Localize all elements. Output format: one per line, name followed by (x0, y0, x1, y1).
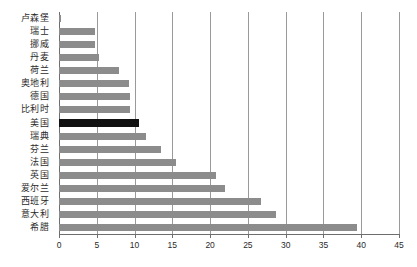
bar (59, 224, 357, 231)
bar-row (59, 221, 399, 234)
tick-label: 45 (394, 240, 403, 250)
tick-label: 40 (356, 240, 365, 250)
tick-mark (361, 234, 362, 238)
bar (59, 106, 130, 113)
category-label: 卢森堡 (0, 12, 53, 25)
bar-row (59, 182, 399, 195)
category-label: 瑞典 (0, 130, 53, 143)
tick-label: 35 (319, 240, 328, 250)
tick-label: 10 (130, 240, 139, 250)
plot-area (59, 12, 399, 234)
bar-row (59, 77, 399, 90)
tick-label: 5 (94, 240, 99, 250)
bar-row (59, 38, 399, 51)
category-label: 荷兰 (0, 64, 53, 77)
category-label: 爱尔兰 (0, 182, 53, 195)
bar-row (59, 195, 399, 208)
bar (59, 133, 146, 140)
tick-label: 0 (57, 240, 62, 250)
tick-mark (210, 234, 211, 238)
category-label: 英国 (0, 169, 53, 182)
tick-mark (172, 234, 173, 238)
bar-row (59, 12, 399, 25)
category-label: 西班牙 (0, 195, 53, 208)
bar (59, 146, 161, 153)
category-axis-labels: 卢森堡瑞士挪威丹麦荷兰奥地利德国比利时美国瑞典芬兰法国英国爱尔兰西班牙意大利希腊 (0, 12, 53, 234)
tick-label: 30 (281, 240, 290, 250)
category-label: 德国 (0, 90, 53, 103)
bar (59, 93, 130, 100)
tick-mark (97, 234, 98, 238)
bar (59, 211, 276, 218)
bar-row (59, 130, 399, 143)
tick-mark (286, 234, 287, 238)
tick-mark (248, 234, 249, 238)
bar-row (59, 51, 399, 64)
bar-row (59, 90, 399, 103)
category-label: 比利时 (0, 103, 53, 116)
bar (59, 28, 95, 35)
category-label: 瑞士 (0, 25, 53, 38)
category-label: 法国 (0, 156, 53, 169)
bar (59, 198, 261, 205)
category-label: 奥地利 (0, 77, 53, 90)
gridline (399, 12, 400, 234)
category-label: 美国 (0, 117, 53, 130)
bar (59, 67, 119, 74)
bar-row (59, 156, 399, 169)
x-axis-ticks: 051015202530354045 (59, 234, 399, 264)
bar-row (59, 143, 399, 156)
category-label: 挪威 (0, 38, 53, 51)
tick-label: 20 (205, 240, 214, 250)
tick-label: 15 (168, 240, 177, 250)
bar (59, 41, 95, 48)
bar-highlighted (59, 119, 139, 127)
bar-row (59, 103, 399, 116)
tick-mark (59, 234, 60, 238)
tick-mark (323, 234, 324, 238)
bar-chart: 卢森堡瑞士挪威丹麦荷兰奥地利德国比利时美国瑞典芬兰法国英国爱尔兰西班牙意大利希腊… (0, 0, 417, 267)
category-label: 意大利 (0, 208, 53, 221)
bar-row (59, 169, 399, 182)
bar (59, 185, 225, 192)
bar (59, 172, 216, 179)
bar-row (59, 25, 399, 38)
category-label: 希腊 (0, 221, 53, 234)
bar (59, 15, 61, 22)
bar (59, 159, 176, 166)
tick-mark (135, 234, 136, 238)
bar-series (59, 12, 399, 234)
category-label: 芬兰 (0, 143, 53, 156)
bar (59, 80, 129, 87)
bar-row (59, 117, 399, 130)
bar-row (59, 208, 399, 221)
tick-mark (399, 234, 400, 238)
tick-label: 25 (243, 240, 252, 250)
category-label: 丹麦 (0, 51, 53, 64)
bar (59, 54, 99, 61)
bar-row (59, 64, 399, 77)
